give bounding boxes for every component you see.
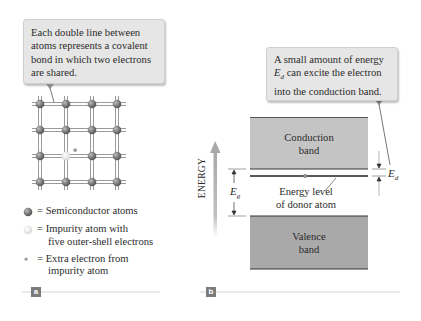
valence-band-label: Valence band [250,231,368,256]
energy-axis-label: ENERGY [197,147,207,209]
band-label-line: band [250,244,368,257]
panel-a-tag: a [31,287,41,297]
callout-pointer [375,100,390,165]
band-label-line: Conduction [250,132,368,145]
energy-arrow-icon [210,141,221,237]
legend-label: Extra electron from [46,253,129,264]
legend-eq: = [37,253,43,264]
band-label-line: Valence [250,231,368,244]
legend-label: Impurity atom with [46,223,128,234]
callout-line: A small amount of energy [274,53,390,66]
legend-item-impurity: = Impurity atom with [37,223,128,236]
eg-symbol: E [230,185,237,197]
legend-eq: = [37,223,43,234]
band-gap-label: Eg [230,185,240,200]
ed-subscript: d [395,174,399,182]
legend-label-cont: impurity atom [48,265,108,278]
donor-level-label: Energy level of donor atom [270,186,342,211]
ed-symbol: E [388,167,395,179]
donor-electron [303,174,306,177]
callout-text: can excite the electron [284,67,382,78]
lattice-bonds [32,96,126,190]
callout-pointer [46,84,54,102]
excitation-callout: A small amount of energy Ed can excite t… [266,47,398,101]
donor-gap-label: Ed [388,167,398,182]
donor-label-line: of donor atom [270,199,342,212]
legend-label-cont: five outer-shell electrons [48,236,153,249]
donor-gap-dimension [372,151,386,196]
callout-line: into the conduction band. [274,85,390,98]
legend-item-semiconductor: = Semiconductor atoms [37,205,138,218]
legend-impurity-atom-icon [24,226,33,235]
callout-line: Ed can excite the electron [274,66,390,85]
semiconductor-atoms [36,100,122,187]
eg-subscript: g [237,192,241,200]
legend-semiconductor-atom-icon [24,208,33,217]
extra-electron [73,148,77,152]
donor-label-line: Energy level [270,186,342,199]
legend-label: Semiconductor atoms [46,205,138,216]
conduction-band-label: Conduction band [250,132,368,157]
impurity-atom [62,152,71,161]
legend-item-electron: = Extra electron from [37,253,129,266]
panel-b-tag: b [206,287,216,297]
band-label-line: band [250,145,368,158]
legend-extra-electron-icon [24,257,27,260]
legend-eq: = [37,205,43,216]
